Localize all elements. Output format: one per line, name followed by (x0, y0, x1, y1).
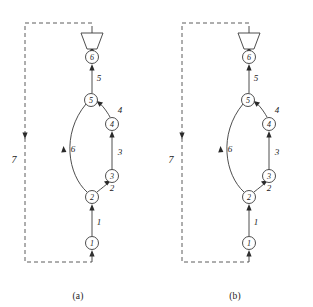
node-6-label-a: 6 (90, 53, 94, 62)
node-2-b: 2 (243, 191, 256, 204)
node-3-label-a: 3 (109, 172, 114, 181)
flow-graph-b: 7 5 4 3 2 (157, 0, 313, 285)
node-2-label-b: 2 (247, 193, 251, 202)
edge-7-dashed-b (179, 23, 251, 262)
panel-caption-a: (a) (0, 291, 156, 301)
node-1-label-a: 1 (90, 239, 94, 248)
node-2-label-a: 2 (90, 193, 94, 202)
node-6-b: 6 (243, 51, 256, 64)
edge-1-arrowhead-a (89, 204, 94, 211)
edge-7-path-a (25, 23, 92, 262)
node-1-label-b: 1 (247, 239, 251, 248)
edge-label-6-b: 6 (228, 144, 233, 154)
funnel-shape-a (81, 33, 103, 49)
edge-1-a (89, 204, 94, 236)
edge-1-b (246, 204, 251, 236)
node-4-b: 4 (263, 118, 276, 131)
edge-5-b (246, 64, 251, 93)
edge-6-arrowhead-b (218, 146, 223, 153)
node-5-label-b: 5 (246, 96, 250, 105)
edge-5-a (89, 64, 94, 93)
edge-5-arrowhead-b (246, 64, 251, 71)
node-4-label-b: 4 (267, 120, 271, 129)
node-3-a: 3 (106, 170, 119, 183)
diagram-panel-a: 7 5 4 3 (0, 0, 156, 307)
edge-label-3-b: 3 (274, 147, 280, 157)
node-5-b: 5 (242, 94, 255, 107)
node-6-a: 6 (86, 51, 99, 64)
edge-4-b (254, 101, 268, 117)
edge-7-path-b (182, 23, 249, 262)
node-6-label-b: 6 (247, 53, 251, 62)
node-5-label-a: 5 (89, 96, 93, 105)
edge-label-7-b: 7 (169, 154, 175, 165)
edge-label-1-b: 1 (254, 217, 259, 227)
edge-7-dashed-a (22, 23, 94, 262)
edge-3-arrowhead-b (266, 131, 271, 138)
edge-label-1-a: 1 (97, 217, 102, 227)
edge-7-arrowhead-mid-b (179, 133, 184, 140)
edge-label-5-b: 5 (254, 73, 259, 83)
node-5-a: 5 (85, 94, 98, 107)
diagram-panel-b: 7 5 4 3 2 (157, 0, 313, 307)
node-4-a: 4 (106, 118, 119, 131)
flow-graph-a: 7 5 4 3 (0, 0, 156, 285)
edge-label-5-a: 5 (97, 73, 102, 83)
node-1-a: 1 (86, 237, 99, 250)
edge-4-a (97, 101, 111, 117)
edge-label-2-b: 2 (267, 183, 272, 193)
node-3-label-b: 3 (266, 172, 271, 181)
figure-root: 7 5 4 3 (0, 0, 313, 307)
panel-caption-b: (b) (157, 291, 313, 301)
edge-label-2-a: 2 (110, 183, 115, 193)
edge-label-4-a: 4 (118, 105, 123, 115)
terminal-funnel-b (238, 26, 260, 49)
node-1-b: 1 (243, 237, 256, 250)
funnel-shape-b (238, 33, 260, 49)
edge-3-arrowhead-a (109, 131, 114, 138)
edge-7-arrowhead-mid-a (22, 133, 27, 140)
node-3-b: 3 (263, 170, 276, 183)
edge-1-arrowhead-b (246, 204, 251, 211)
node-4-label-a: 4 (110, 120, 114, 129)
edge-label-4-b: 4 (275, 105, 280, 115)
terminal-funnel-a (81, 26, 103, 49)
node-2-a: 2 (86, 191, 99, 204)
edge-3-b (266, 131, 271, 170)
edge-label-6-a: 6 (71, 144, 76, 154)
edge-label-3-a: 3 (117, 147, 123, 157)
edge-3-a (109, 131, 114, 170)
edge-6-arrowhead-a (61, 146, 66, 153)
edge-5-arrowhead-a (89, 64, 94, 71)
edge-label-7-a: 7 (12, 154, 18, 165)
